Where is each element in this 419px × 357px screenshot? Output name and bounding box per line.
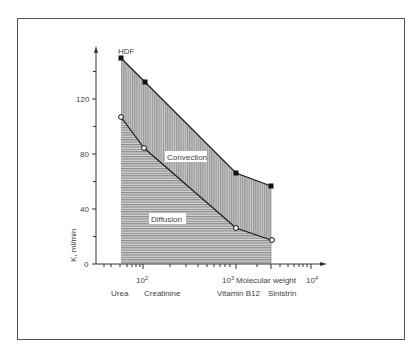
x-tick-1000: 103 bbox=[222, 275, 234, 285]
y-tick-80: 80 bbox=[80, 150, 89, 159]
urea-label: Urea bbox=[111, 289, 129, 298]
vitamin-b12-label: Vitamin B12 bbox=[217, 289, 261, 298]
y-ticks bbox=[92, 72, 96, 265]
y-tick-40: 40 bbox=[80, 205, 89, 214]
diffusion-label: Diffusion bbox=[151, 215, 182, 224]
hdf-label: HDF bbox=[118, 47, 135, 56]
creatinine-label: Creatinine bbox=[144, 289, 181, 298]
x-ticks bbox=[104, 264, 311, 269]
y-tick-120: 120 bbox=[76, 95, 90, 104]
sinistrin-label: Sinistrin bbox=[268, 289, 296, 298]
x-tick-100: 102 bbox=[136, 275, 148, 285]
x-axis-label: Molecular weight bbox=[236, 276, 297, 285]
chart: Convection Diffusion HDF 120 80 40 0 K, … bbox=[0, 0, 419, 357]
y-tick-0: 0 bbox=[84, 260, 89, 269]
convection-label: Convection bbox=[167, 153, 207, 162]
y-axis-arrow bbox=[94, 46, 98, 53]
x-axis-arrow bbox=[320, 262, 327, 266]
x-tick-10000: 104 bbox=[306, 275, 318, 285]
y-axis-label: K, ml/min bbox=[69, 229, 78, 262]
